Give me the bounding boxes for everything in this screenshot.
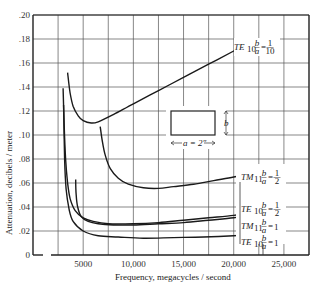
- waveguide-rectangle: [171, 111, 215, 135]
- svg-text:a: a: [255, 46, 260, 56]
- svg-text:=: =: [268, 237, 273, 247]
- y-tick-label: .12: [19, 106, 30, 116]
- x-tick-label: 25,000: [272, 259, 297, 269]
- svg-text:TM: TM: [241, 221, 254, 231]
- svg-text:1: 1: [274, 238, 279, 248]
- x-tick-label: 15,000: [171, 259, 196, 269]
- svg-text:2: 2: [275, 176, 280, 186]
- svg-text:2: 2: [275, 208, 280, 218]
- x-tick-label: 5000: [74, 259, 93, 269]
- x-tick-label: 20,000: [221, 259, 246, 269]
- svg-text:a: a: [262, 176, 267, 186]
- y-tick-label: .20: [19, 10, 31, 20]
- svg-text:=: =: [268, 172, 273, 182]
- svg-text:=: =: [268, 221, 273, 231]
- y-tick-label: .10: [19, 130, 31, 140]
- inset-a-label: a = 2″: [183, 138, 207, 148]
- x-tick-label: 10,000: [121, 259, 146, 269]
- y-tick-label: .08: [19, 154, 31, 164]
- x-axis-label: Frequency, megacycles / second: [115, 272, 231, 282]
- svg-text:a: a: [262, 241, 267, 251]
- attenuation-chart: 0.02.04.06.08.10.12.14.16.18.20 500010,0…: [0, 0, 319, 287]
- y-tick-label: .16: [19, 58, 31, 68]
- svg-text:TE: TE: [241, 204, 252, 214]
- x-tick-labels: 500010,00015,00020,00025,000: [74, 259, 297, 269]
- y-tick-label: .02: [19, 226, 30, 236]
- svg-text:10: 10: [266, 46, 276, 56]
- svg-text:1: 1: [274, 222, 279, 232]
- y-tick-label: .04: [19, 202, 31, 212]
- svg-text:TE: TE: [241, 237, 252, 247]
- y-tick-label: 0: [26, 250, 31, 260]
- svg-text:=: =: [268, 204, 273, 214]
- curve-tm11-b-a-1: [76, 179, 252, 225]
- waveguide-inset: b a = 2″: [166, 106, 229, 149]
- y-tick-label: .06: [19, 178, 31, 188]
- curve-labels: TE10ba=110TM11ba=12TE10ba=12TM11ba=1TE10…: [234, 38, 286, 255]
- y-tick-label: .14: [19, 82, 31, 92]
- y-tick-labels: 0.02.04.06.08.10.12.14.16.18.20: [19, 10, 31, 260]
- svg-text:TM: TM: [241, 172, 254, 182]
- svg-text:TE: TE: [234, 42, 245, 52]
- inset-b-label: b: [224, 118, 229, 128]
- svg-text:a: a: [262, 208, 267, 218]
- y-axis-label: Attenuation, decibels / meter: [4, 131, 14, 235]
- y-tick-label: .18: [19, 34, 31, 44]
